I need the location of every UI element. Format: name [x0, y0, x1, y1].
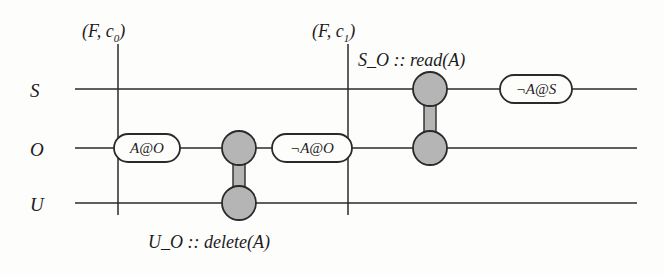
msc-diagram: A@O ¬A@O ¬A@S S O U (F, c0) (F, c1) S_O … — [0, 0, 664, 276]
state-box-not-a-at-o: ¬A@O — [272, 134, 352, 162]
interaction-u-o-delete — [222, 131, 256, 220]
state-box-a-at-o: A@O — [114, 134, 180, 162]
interaction-s-o-read — [413, 72, 447, 165]
cut-label-c0: (F, c0) — [82, 22, 125, 44]
state-box-not-a-at-o-label: ¬A@O — [290, 140, 334, 156]
interaction-label-u-o-delete: U_O :: delete(A) — [148, 233, 270, 251]
cut-label-c0-text: (F, c — [82, 21, 114, 41]
lane-label-U: U — [30, 195, 44, 214]
lane-label-S: S — [30, 81, 40, 100]
state-box-not-a-at-s-label: ¬A@S — [516, 81, 557, 97]
state-box-not-a-at-s: ¬A@S — [500, 75, 572, 103]
event-node-o-delete — [222, 131, 256, 165]
state-box-a-at-o-label: A@O — [129, 140, 164, 156]
event-node-u-delete — [222, 186, 256, 220]
event-node-s-read — [413, 72, 447, 106]
cut-label-c1-close: ) — [349, 21, 355, 41]
cut-label-c0-close: ) — [119, 21, 125, 41]
interaction-label-s-o-read: S_O :: read(A) — [358, 51, 465, 69]
event-node-o-read — [413, 131, 447, 165]
cut-label-c1-text: (F, c — [312, 21, 344, 41]
cut-label-c1: (F, c1) — [312, 22, 355, 44]
lane-label-O: O — [30, 140, 44, 159]
